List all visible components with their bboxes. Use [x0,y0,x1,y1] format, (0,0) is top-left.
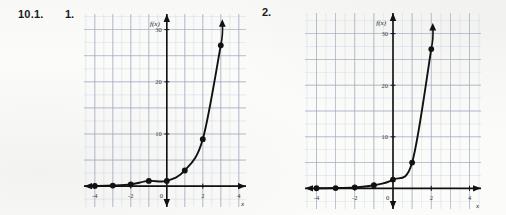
x-axis-label: x [240,200,245,207]
data-point [164,178,170,184]
data-point [333,185,339,191]
x-tick-label: -4 [314,194,320,201]
data-point [146,178,152,184]
y-tick-label: 20 [382,82,389,89]
curve-end-arrowhead [429,23,436,31]
data-point [182,168,188,174]
x-tick-label: 2 [201,192,204,199]
graph-2: -4-2024102030f(x)x [305,13,481,209]
x-tick-label: 4 [468,194,472,201]
data-point [371,182,377,188]
graph-2-canvas: -4-2024102030f(x)x [305,13,481,209]
x-axis-arrow-left [305,185,313,191]
item-label-2: 2. [262,6,271,18]
y-axis-arrow-down [390,201,396,209]
data-point [92,183,98,189]
x-tick-label: -2 [352,194,357,201]
y-axis-label: f(x) [376,19,386,27]
item-label-1: 1. [65,8,74,20]
data-point [218,42,224,48]
x-axis-arrow-left [84,183,92,189]
data-point [352,184,358,190]
data-point [128,182,134,188]
x-tick-label: 2 [430,194,433,201]
y-axis-arrow-down [164,199,170,207]
data-point [200,136,206,142]
y-tick-label: 20 [155,78,162,85]
x-axis-arrow-right [473,185,481,191]
x-tick-label: -4 [92,192,98,199]
y-axis-arrow-up [164,14,170,22]
x-tick-label: 0 [386,194,389,201]
y-tick-label: 10 [382,133,389,140]
data-point [314,185,320,191]
data-point [409,160,415,166]
y-axis-label: f(x) [150,20,160,28]
y-tick-label: 30 [382,30,389,37]
graph-1: -4-2024102030f(x)x [84,14,246,207]
exercise-number: 10.1. [18,8,43,20]
x-tick-label: -2 [128,192,133,199]
x-tick-label: 0 [160,192,163,199]
y-tick-label: 10 [155,130,162,137]
y-axis-arrow-up [390,13,396,21]
data-point [110,183,116,189]
data-point [428,46,434,52]
curve-end-arrowhead [219,19,226,27]
data-point [390,177,396,183]
graph-1-canvas: -4-2024102030f(x)x [84,14,246,207]
x-tick-label: 4 [237,192,241,199]
